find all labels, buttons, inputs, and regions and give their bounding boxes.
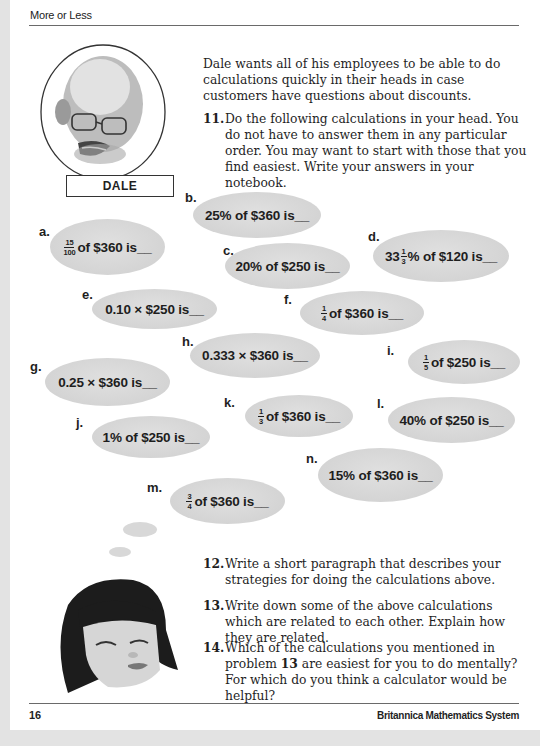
question-13: 13. Write down some of the above calcula… — [203, 598, 533, 646]
calc-label-h: h. — [182, 334, 194, 349]
calc-bubble-c: 20% of $250 is__ — [225, 243, 350, 289]
calc-text: 15% of $360 is__ — [328, 468, 432, 483]
dale-nameplate: DALE — [66, 175, 174, 197]
calc-label-n: n. — [306, 451, 318, 466]
calc-bubble-m: 34 of $360 is__ — [170, 478, 285, 524]
calc-label-b: b. — [185, 190, 197, 205]
calc-bubble-e: 0.10 × $250 is__ — [92, 289, 217, 329]
calc-bubble-k: 13 of $360 is__ — [245, 395, 353, 437]
fraction: 15 — [423, 354, 429, 371]
chapter-title: More or Less — [30, 9, 92, 21]
calc-label-j: j. — [76, 415, 83, 430]
calc-text: 20% of $250 is__ — [235, 259, 339, 274]
page-number: 16 — [29, 709, 41, 721]
question-text: Write down some of the above calculation… — [225, 598, 533, 646]
calc-text: 0.333 × $360 is__ — [202, 348, 308, 363]
calc-text: 25% of $360 is__ — [205, 208, 309, 223]
question-number: 13. — [203, 598, 224, 614]
question-text: Which of the calculations you mentioned … — [225, 640, 533, 704]
calc-bubble-f: 14 of $360 is__ — [300, 291, 424, 335]
question-number: 11. — [203, 111, 224, 127]
calc-text: of $360 is__ — [266, 409, 340, 424]
mixed-number: 33 13 % of $120 is__ — [385, 248, 497, 265]
calc-text: of $360 is__ — [194, 494, 268, 509]
publisher-name: Britannica Mathematics System — [377, 710, 519, 721]
intro-paragraph: Dale wants all of his employees to be ab… — [203, 56, 528, 104]
calc-bubble-g: 0.25 × $360 is__ — [45, 358, 170, 406]
calc-bubble-d: 33 13 % of $120 is__ — [373, 230, 509, 282]
fraction: 13 — [258, 408, 264, 425]
calc-bubble-l: 40% of $250 is__ — [388, 397, 515, 443]
calc-label-a: a. — [39, 224, 50, 239]
calc-text: 1% of $250 is__ — [103, 430, 200, 445]
girl-portrait-illustration — [48, 575, 188, 700]
question-12: 12. Write a short paragraph that describ… — [203, 556, 533, 588]
question-text: Write a short paragraph that describes y… — [225, 556, 533, 588]
calc-bubble-j: 1% of $250 is__ — [92, 416, 210, 458]
calc-bubble-b: 25% of $360 is__ — [193, 192, 321, 238]
calc-label-d: d. — [368, 229, 380, 244]
calc-bubble-n: 15% of $360 is__ — [318, 448, 443, 502]
question-text: Do the following calculations in your he… — [225, 111, 533, 191]
calc-bubble-i: 15 of $250 is__ — [408, 340, 520, 384]
calc-label-e: e. — [82, 287, 93, 302]
calc-label-m: m. — [147, 480, 162, 495]
calc-text: of $250 is__ — [431, 355, 505, 370]
calc-label-l: l. — [377, 396, 384, 411]
question-number: 12. — [203, 556, 224, 572]
thought-dot-small — [109, 547, 131, 557]
calc-label-g: g. — [30, 359, 42, 374]
thought-dot-large — [123, 522, 157, 537]
calc-text: of $360 is__ — [77, 240, 151, 255]
fraction: 14 — [321, 305, 327, 322]
calc-label-f: f. — [284, 292, 292, 307]
worksheet-page: More or Less DALE Dale wants all of his … — [10, 0, 540, 730]
calc-label-k: k. — [224, 395, 235, 410]
header-rule — [29, 25, 519, 26]
calc-text: 0.10 × $250 is__ — [105, 302, 204, 317]
calc-text: 0.25 × $360 is__ — [58, 375, 157, 390]
calc-bubble-a: 15100 of $360 is__ — [50, 219, 165, 275]
calc-text: % of $120 is__ — [408, 249, 498, 264]
question-14: 14. Which of the calculations you mentio… — [203, 640, 533, 704]
footer-rule — [29, 703, 519, 704]
calc-label-i: i. — [387, 343, 394, 358]
fraction: 34 — [186, 493, 192, 510]
dale-portrait-illustration — [28, 42, 178, 192]
calc-text: 40% of $250 is__ — [399, 413, 503, 428]
fraction: 15100 — [63, 239, 75, 256]
question-number: 14. — [203, 640, 224, 656]
question-11: 11. Do the following calculations in you… — [203, 111, 533, 191]
calc-bubble-h: 0.333 × $360 is__ — [190, 333, 320, 378]
calc-text: of $360 is__ — [329, 306, 403, 321]
